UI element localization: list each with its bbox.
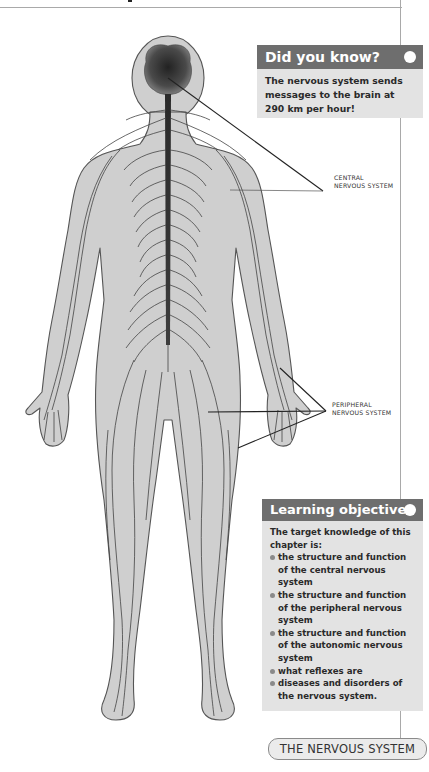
learning-objectives-header: Learning objectives bbox=[262, 499, 423, 521]
learning-objectives-box: Learning objectives The target knowledge… bbox=[262, 499, 423, 711]
did-you-know-text: The nervous system sends messages to the… bbox=[257, 69, 423, 116]
objective-item: the structure and function of the autono… bbox=[270, 627, 417, 665]
objective-item: what reflexes are bbox=[270, 665, 417, 678]
learning-objectives-intro: The target knowledge of this chapter is: bbox=[270, 526, 417, 551]
did-you-know-box: Did you know? The nervous system sends m… bbox=[257, 45, 423, 118]
central-nervous-system-label: CENTRAL NERVOUS SYSTEM bbox=[334, 174, 394, 190]
spinal-cord bbox=[165, 94, 171, 345]
learning-objectives-title: Learning objectives bbox=[270, 502, 414, 517]
bullet-circle-icon bbox=[404, 51, 416, 63]
learning-objectives-body: The target knowledge of this chapter is:… bbox=[262, 521, 423, 702]
did-you-know-title: Did you know? bbox=[265, 49, 380, 65]
did-you-know-header: Did you know? bbox=[257, 45, 423, 69]
objectives-list: the structure and function of the centra… bbox=[270, 551, 417, 702]
objective-item: diseases and disorders of the nervous sy… bbox=[270, 677, 417, 702]
bullet-circle-icon bbox=[404, 504, 416, 516]
peripheral-nervous-system-label: PERIPHERAL NERVOUS SYSTEM bbox=[332, 401, 394, 417]
objective-item: the structure and function of the centra… bbox=[270, 551, 417, 589]
brain bbox=[144, 45, 191, 95]
objective-item: the structure and function of the periph… bbox=[270, 589, 417, 627]
chapter-title-tab: THE NERVOUS SYSTEM bbox=[268, 738, 427, 760]
